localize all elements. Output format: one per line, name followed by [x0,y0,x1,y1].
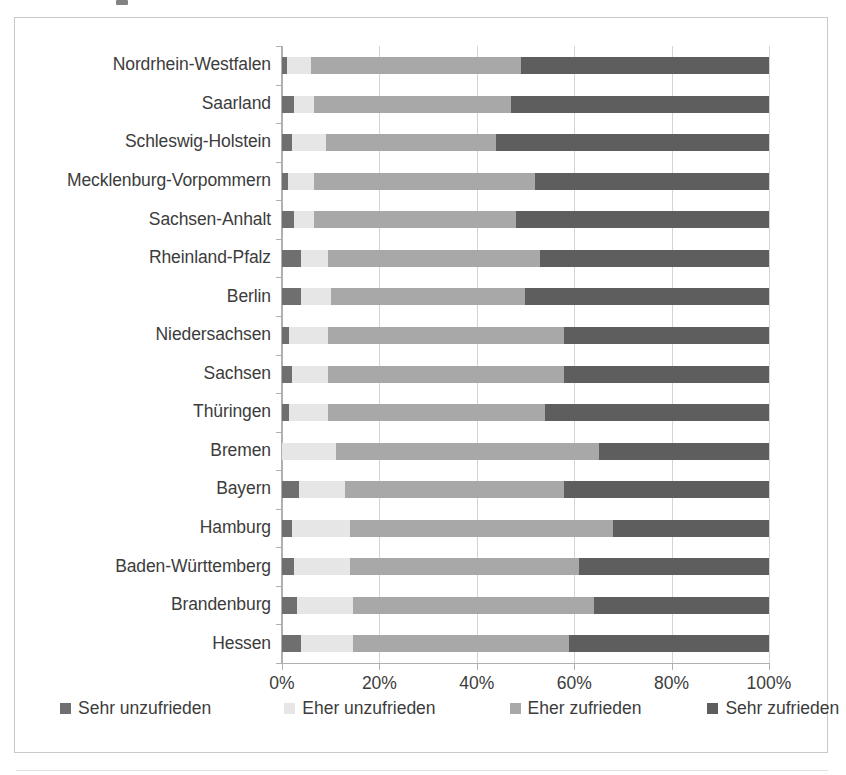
bar-segment-eher-zufrieden [331,288,526,305]
bar-segment-sehr-unzufrieden [282,558,294,575]
category-label: Saarland [202,95,271,113]
bar-segment-eher-unzufrieden [289,404,328,421]
bar-segment-eher-zufrieden [328,404,545,421]
category-label: Sachsen [204,365,271,383]
bar-segment-eher-zufrieden [311,57,520,74]
bar-row: Schleswig-Holstein [282,123,769,162]
legend-swatch-icon [284,703,295,714]
stacked-bar [282,327,769,344]
category-label: Sachsen-Anhalt [149,211,271,229]
bar-segment-eher-zufrieden [314,173,536,190]
bar-segment-sehr-unzufrieden [282,134,292,151]
legend-swatch-icon [60,703,71,714]
x-axis-tick [574,663,575,670]
bar-segment-eher-zufrieden [328,327,564,344]
bar-row: Sachsen [282,355,769,394]
bar-segment-eher-zufrieden [350,520,613,537]
stacked-bar [282,173,769,190]
bar-segment-eher-unzufrieden [292,366,329,383]
bar-row: Bremen [282,432,769,471]
bar-segment-eher-unzufrieden [294,558,350,575]
x-axis-label-20pct: 20% [362,675,397,693]
category-label: Berlin [227,288,271,306]
stacked-bar [282,443,769,460]
stacked-bar [282,57,769,74]
x-axis-label-40pct: 40% [459,675,494,693]
legend-swatch-icon [707,703,718,714]
bar-row: Baden-Württemberg [282,547,769,586]
bar-row: Sachsen-Anhalt [282,200,769,239]
x-axis-tick [379,663,380,670]
stacked-bar [282,250,769,267]
legend-label: Sehr zufrieden [725,700,839,718]
bar-row: Saarland [282,85,769,124]
bar-segment-sehr-unzufrieden [282,250,301,267]
stacked-bar [282,635,769,652]
x-axis-label-80pct: 80% [654,675,689,693]
x-axis-label-0pct: 0% [269,675,294,693]
x-axis-label-100pct: 100% [747,675,792,693]
bar-segment-sehr-zufrieden [545,404,769,421]
stacked-bar [282,134,769,151]
legend-label: Eher zufrieden [528,700,642,718]
category-label: Brandenburg [171,596,271,614]
legend-item-eher-unzufrieden[interactable]: Eher unzufrieden [284,700,435,718]
bar-row: Brandenburg [282,586,769,625]
bar-segment-eher-zufrieden [328,366,564,383]
bar-segment-eher-zufrieden [326,134,496,151]
category-label: Hessen [212,635,271,653]
stacked-bar [282,520,769,537]
bar-segment-eher-unzufrieden [297,597,353,614]
bar-row: Hamburg [282,509,769,548]
bar-row: Berlin [282,277,769,316]
stacked-bar [282,288,769,305]
bar-segment-eher-zufrieden [350,558,579,575]
bar-row: Bayern [282,470,769,509]
bar-segment-sehr-zufrieden [579,558,769,575]
x-axis-tick [282,663,283,670]
bar-segment-sehr-zufrieden [535,173,769,190]
bar-segment-sehr-zufrieden [525,288,769,305]
x-axis-tick [477,663,478,670]
legend-item-eher-zufrieden[interactable]: Eher zufrieden [510,700,642,718]
gridline-100pct [769,46,770,663]
legend-item-sehr-unzufrieden[interactable]: Sehr unzufrieden [60,700,211,718]
bar-segment-eher-unzufrieden [294,211,313,228]
plot-area: Nordrhein-WestfalenSaarlandSchleswig-Hol… [282,46,769,663]
stacked-bar [282,366,769,383]
bar-segment-eher-unzufrieden [289,327,328,344]
bar-segment-eher-zufrieden [328,250,540,267]
bar-segment-eher-zufrieden [336,443,599,460]
bar-segment-sehr-unzufrieden [282,597,297,614]
stacked-bar [282,404,769,421]
stacked-bar [282,481,769,498]
bar-row: Niedersachsen [282,316,769,355]
bar-segment-sehr-unzufrieden [282,96,294,113]
legend-label: Eher unzufrieden [302,700,435,718]
bar-segment-eher-zufrieden [314,96,511,113]
bar-row: Nordrhein-Westfalen [282,46,769,85]
bar-segment-eher-unzufrieden [292,134,326,151]
bar-segment-sehr-zufrieden [569,635,769,652]
legend-item-sehr-zufrieden[interactable]: Sehr zufrieden [707,700,839,718]
bar-segment-sehr-zufrieden [564,327,769,344]
bar-segment-sehr-unzufrieden [282,288,301,305]
x-axis-line [282,663,769,664]
category-label: Schleswig-Holstein [125,134,271,152]
category-label: Nordrhein-Westfalen [113,57,271,75]
bar-segment-sehr-unzufrieden [282,520,292,537]
bar-segment-sehr-unzufrieden [282,366,292,383]
bar-segment-eher-zufrieden [353,635,570,652]
category-label: Mecklenburg-Vorpommern [67,172,271,190]
bar-segment-eher-unzufrieden [301,250,328,267]
bar-segment-eher-unzufrieden [292,520,350,537]
bar-segment-eher-zufrieden [314,211,516,228]
category-label: Bremen [210,442,271,460]
bar-segment-sehr-unzufrieden [282,404,289,421]
bar-segment-eher-unzufrieden [299,481,345,498]
bar-row: Rheinland-Pfalz [282,239,769,278]
bar-segment-sehr-zufrieden [613,520,769,537]
x-axis-tick [672,663,673,670]
category-label: Hamburg [200,519,271,537]
x-axis-label-60pct: 60% [557,675,592,693]
